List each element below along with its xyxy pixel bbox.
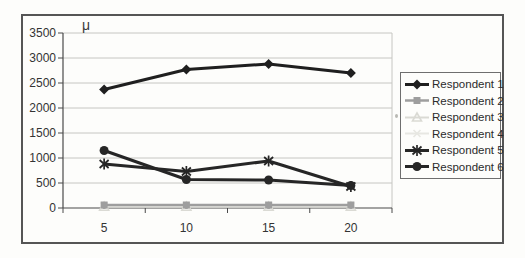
legend-label: Respondent 6 <box>432 161 504 173</box>
legend-label: Respondent 4 <box>432 128 504 140</box>
svg-text:20: 20 <box>344 221 358 235</box>
svg-text:15: 15 <box>262 221 276 235</box>
legend-item: Respondent 1 <box>404 76 498 93</box>
svg-text:2500: 2500 <box>29 76 56 90</box>
svg-text:1500: 1500 <box>29 126 56 140</box>
svg-text:3500: 3500 <box>29 26 56 40</box>
scan-artifact <box>395 114 398 118</box>
diamond-marker-icon <box>404 78 430 91</box>
star-marker-icon <box>404 144 430 157</box>
chart-figure: 05001000150020002500300035005101520 μ Re… <box>0 0 525 258</box>
legend-label: Respondent 5 <box>432 144 504 156</box>
svg-text:1000: 1000 <box>29 151 56 165</box>
svg-text:3000: 3000 <box>29 51 56 65</box>
legend-label: Respondent 2 <box>432 95 504 107</box>
chart-legend: Respondent 1 Respondent 2 Respondent 3 R… <box>400 72 501 179</box>
svg-text:10: 10 <box>180 221 194 235</box>
legend-item: Respondent 5 <box>404 142 498 159</box>
legend-item: Respondent 2 <box>404 93 498 110</box>
y-axis-title: μ <box>82 17 91 33</box>
legend-item: Respondent 3 <box>404 109 498 126</box>
triangle-marker-icon <box>404 111 430 124</box>
circle-marker-icon <box>404 160 430 173</box>
legend-item: Respondent 6 <box>404 159 498 176</box>
legend-label: Respondent 3 <box>432 111 504 123</box>
legend-label: Respondent 1 <box>432 78 504 90</box>
svg-text:0: 0 <box>49 201 56 215</box>
svg-text:5: 5 <box>101 221 108 235</box>
svg-text:2000: 2000 <box>29 101 56 115</box>
legend-item: Respondent 4 <box>404 126 498 143</box>
square-marker-icon <box>404 94 430 107</box>
svg-text:500: 500 <box>36 176 56 190</box>
x-marker-icon <box>404 127 430 140</box>
